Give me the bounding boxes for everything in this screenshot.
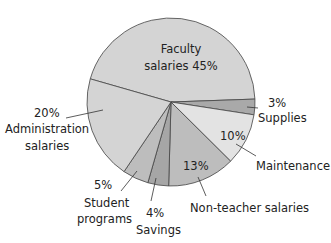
label-faculty: Faculty [161,42,202,56]
label-admin-2: salaries [25,139,69,153]
label-student-pct: 5% [94,178,112,192]
label-nonteacher-pct: 13% [183,159,209,173]
label-maintenance-pct: 10% [220,129,246,143]
label-savings: Savings [136,223,181,237]
label-maintenance: Maintenance [256,159,330,173]
label-student-2: programs [77,212,132,226]
pie-chart: Faculty salaries 45% 3% Supplies 10% Mai… [0,0,331,243]
label-admin-pct: 20% [34,106,60,120]
label-supplies: Supplies [258,111,307,125]
label-supplies-pct: 3% [268,96,286,110]
label-student: Student [84,196,130,210]
label-faculty-pct: salaries 45% [144,59,218,73]
label-admin: Administration [5,122,89,136]
label-savings-pct: 4% [146,206,164,220]
label-nonteacher: Non-teacher salaries [190,201,309,215]
